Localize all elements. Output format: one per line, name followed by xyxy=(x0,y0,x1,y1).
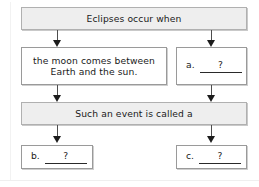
arrow-middle-to-bottom-right xyxy=(207,125,216,143)
arrow-top-to-mid-left xyxy=(53,30,62,47)
answer-c: c. ? xyxy=(177,150,241,163)
node-such-an-event: Such an event is called a xyxy=(21,102,247,125)
answer-a: a. ? xyxy=(177,59,242,72)
node-moon-between-earth-sun: the moon comes between Earth and the sun… xyxy=(21,47,167,85)
answer-c-label: c. xyxy=(186,150,194,161)
arrow-mid-right-to-middle xyxy=(207,85,216,102)
node-moon-between-earth-sun-label: the moon comes between Earth and the sun… xyxy=(22,55,166,77)
arrow-middle-to-bottom-left xyxy=(53,125,62,143)
answer-a-blank[interactable]: ? xyxy=(200,59,242,72)
answer-b-label: b. xyxy=(31,150,40,161)
answer-a-label: a. xyxy=(186,59,195,70)
arrow-top-to-mid-right xyxy=(207,30,216,47)
node-blank-a[interactable]: a. ? xyxy=(176,47,247,85)
arrow-mid-left-to-middle xyxy=(53,85,62,102)
node-blank-c[interactable]: c. ? xyxy=(176,145,247,169)
answer-c-blank[interactable]: ? xyxy=(199,150,241,163)
node-blank-b[interactable]: b. ? xyxy=(21,145,93,169)
node-such-an-event-label: Such an event is called a xyxy=(22,108,246,119)
answer-b-blank[interactable]: ? xyxy=(45,150,87,163)
node-eclipses-occur-when: Eclipses occur when xyxy=(21,7,247,30)
node-eclipses-occur-when-label: Eclipses occur when xyxy=(22,13,246,24)
page-bottom-rule xyxy=(0,180,259,181)
answer-b: b. ? xyxy=(22,150,87,163)
concept-map-diagram: Eclipses occur when the moon comes betwe… xyxy=(0,0,259,187)
page-margin-rule xyxy=(10,2,11,180)
